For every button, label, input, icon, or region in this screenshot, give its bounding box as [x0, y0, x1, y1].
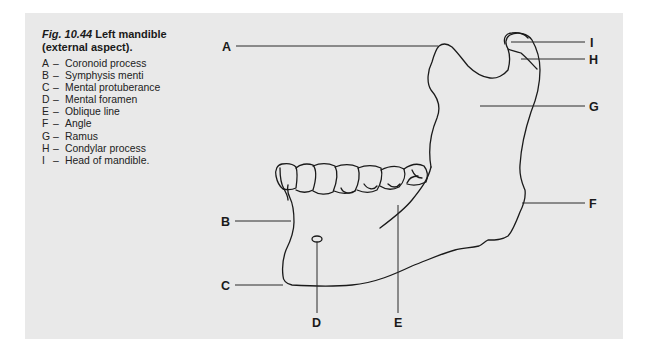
mental-foramen	[312, 236, 322, 242]
label-a: A	[222, 40, 231, 54]
oblique-line	[380, 167, 431, 228]
label-h: H	[589, 53, 598, 67]
label-i: I	[590, 36, 593, 50]
mandible-outline	[283, 33, 540, 286]
label-f: F	[589, 197, 597, 211]
label-d: D	[312, 316, 321, 330]
label-g: G	[589, 100, 599, 114]
teeth-row	[276, 164, 428, 195]
mandible-diagram: A B C D E F G H I	[0, 0, 650, 349]
label-b: B	[221, 215, 230, 229]
label-e: E	[394, 316, 402, 330]
label-c: C	[221, 279, 230, 293]
